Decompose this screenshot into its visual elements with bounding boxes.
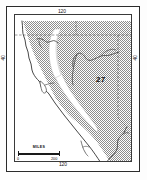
map-frame [14, 14, 132, 162]
scale-bar-max: 200 [51, 156, 57, 162]
scale-bar: MILES 0 200 [18, 145, 60, 162]
scale-bar-title: MILES [18, 145, 60, 150]
region-number-label: 27 [96, 75, 106, 84]
san-francisco-bay [40, 81, 46, 93]
scale-bar-line [18, 153, 60, 155]
latitude-label-left: 40 [0, 54, 6, 61]
latitude-label-right: 40 [132, 54, 138, 61]
scale-bar-numbers: 0 200 [18, 156, 60, 162]
map-figure: 120 120 40 40 [0, 0, 147, 180]
scale-bar-min: 0 [17, 156, 19, 162]
river-mojave-branch [83, 146, 89, 147]
map-drawing [15, 15, 132, 162]
